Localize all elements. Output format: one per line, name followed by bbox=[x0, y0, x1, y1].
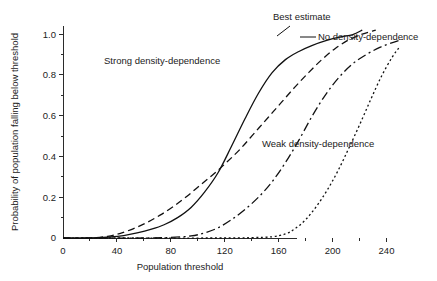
series-label-0: Strong density-dependence bbox=[104, 55, 220, 66]
x-axis-title: Population threshold bbox=[137, 261, 224, 272]
y-tick-label: 0 bbox=[51, 232, 56, 243]
x-tick-label: 80 bbox=[166, 245, 177, 256]
y-axis-title: Probability of population falling below … bbox=[9, 33, 20, 231]
series-leader-line-1 bbox=[277, 26, 290, 36]
x-tick-label: 240 bbox=[379, 245, 395, 256]
series-annotations: Strong density-dependenceBest estimateNo… bbox=[104, 11, 418, 149]
figure-container: 0408012016020024000.20.40.60.81.0 Strong… bbox=[0, 0, 437, 281]
series-label-1: Best estimate bbox=[273, 11, 331, 22]
series-label-3: Weak density-dependence bbox=[262, 138, 374, 149]
x-tick-label: 120 bbox=[217, 245, 233, 256]
y-tick-label: 1.0 bbox=[43, 29, 56, 40]
y-tick-label: 0.6 bbox=[43, 110, 56, 121]
x-tick-label: 0 bbox=[60, 245, 65, 256]
probability-threshold-chart: 0408012016020024000.20.40.60.81.0 Strong… bbox=[0, 0, 437, 281]
x-tick-label: 160 bbox=[271, 245, 287, 256]
y-tick-label: 0.8 bbox=[43, 69, 56, 80]
x-tick-label: 200 bbox=[325, 245, 341, 256]
y-tick-label: 0.4 bbox=[43, 151, 56, 162]
x-tick-label: 40 bbox=[112, 245, 123, 256]
y-tick-label: 0.2 bbox=[43, 192, 56, 203]
series-label-2: No density-dependence bbox=[318, 31, 418, 42]
